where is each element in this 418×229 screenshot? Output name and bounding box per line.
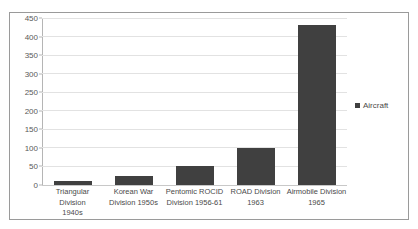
x-axis-category-label-line: Division 1950s — [103, 198, 164, 209]
bar — [54, 181, 92, 185]
y-axis-tick-label: 300 — [25, 69, 38, 78]
y-axis-tick-label: 450 — [25, 14, 38, 23]
bar-slot — [286, 18, 347, 185]
x-axis-category-label: Triangular Division1940s — [42, 187, 103, 219]
y-axis-tick-label: 200 — [25, 106, 38, 115]
y-axis-tick-label: 350 — [25, 51, 38, 60]
x-axis-category-label-line: Division 1956-61 — [164, 198, 225, 209]
y-axis-tick-label: 100 — [25, 143, 38, 152]
legend-label-aircraft: Aircraft — [363, 101, 388, 110]
bar-slot — [103, 18, 164, 185]
x-axis-category-label-line: Airmobile Division — [286, 187, 347, 198]
bar-chart-figure: 050100150200250300350400450 Triangular D… — [0, 0, 418, 229]
x-axis-category-label: Korean WarDivision 1950s — [103, 187, 164, 208]
x-axis-category-label: Airmobile Division1965 — [286, 187, 347, 208]
x-axis-category-label: ROAD Division1963 — [225, 187, 286, 208]
y-axis-tick-label: 50 — [29, 162, 38, 171]
bar-slot — [42, 18, 103, 185]
y-axis-tick-label: 150 — [25, 125, 38, 134]
bars-group — [42, 18, 347, 185]
y-axis-tick-label: 0 — [34, 181, 38, 190]
x-axis-category-label-line: ROAD Division — [225, 187, 286, 198]
bar-slot — [225, 18, 286, 185]
legend-square-marker-icon — [355, 103, 360, 108]
x-axis-category-label-line: 1940s — [42, 208, 103, 219]
x-axis-category-label-line: 1963 — [225, 198, 286, 209]
x-axis-category-label-line: Triangular Division — [42, 187, 103, 208]
bar — [115, 176, 153, 185]
chart-legend: Aircraft — [355, 101, 388, 110]
x-axis-labels: Triangular Division1940sKorean WarDivisi… — [42, 187, 347, 217]
chart-title — [0, 0, 418, 7]
bar-slot — [164, 18, 225, 185]
x-axis-category-label: Pentomic ROCIDDivision 1956-61 — [164, 187, 225, 208]
y-axis-tick-label: 250 — [25, 88, 38, 97]
y-axis-tick-label: 400 — [25, 32, 38, 41]
bar — [176, 166, 214, 185]
x-axis-category-label-line: 1965 — [286, 198, 347, 209]
bar — [237, 148, 275, 185]
plot-area: 050100150200250300350400450 — [42, 18, 347, 185]
bar — [298, 25, 336, 185]
x-axis-category-label-line: Korean War — [103, 187, 164, 198]
x-axis-category-label-line: Pentomic ROCID — [164, 187, 225, 198]
